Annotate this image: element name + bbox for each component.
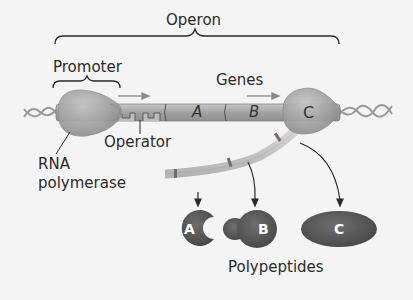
- rna-polymerase-pointer: [56, 132, 70, 154]
- polypeptide-a-label: A: [184, 222, 195, 236]
- translation-arrow-b: [248, 162, 258, 206]
- operon-label: Operon: [166, 13, 221, 28]
- polypeptides-label: Polypeptides: [228, 260, 324, 275]
- dna-helix-left: [24, 108, 58, 117]
- translation-arrow-c: [300, 143, 343, 206]
- mrna-marker-1: [174, 169, 177, 178]
- translation-arrow-a: [195, 192, 201, 206]
- rna-polymerase-label-line2: polymerase: [38, 176, 126, 191]
- rna-polymerase-left: [58, 90, 122, 136]
- polypeptide-c-label: C: [334, 222, 344, 236]
- promoter-label: Promoter: [53, 60, 122, 75]
- polypeptide-b-label: B: [258, 222, 269, 236]
- polypeptide-b-shape: [223, 210, 277, 248]
- direction-arrow-2: [247, 93, 279, 99]
- gene-c-label: C: [303, 105, 314, 121]
- operator-label: Operator: [104, 135, 171, 150]
- rna-polymerase-label-line1: RNA: [38, 157, 70, 172]
- operon-brace: [55, 29, 339, 44]
- dna-helix-right: [338, 105, 392, 117]
- gene-a-label: A: [192, 105, 202, 120]
- genes-label: Genes: [216, 73, 263, 88]
- diagram-graphics: [0, 0, 413, 300]
- operon-diagram: Operon Promoter Genes Operator RNA polym…: [0, 0, 413, 300]
- promoter-brace: [53, 76, 120, 88]
- gene-b-label: B: [249, 105, 259, 120]
- direction-arrow-1: [118, 93, 149, 99]
